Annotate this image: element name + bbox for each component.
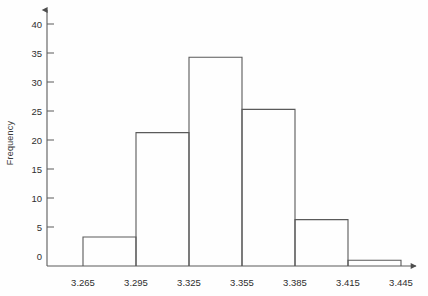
bar-3-325-3-355: [189, 57, 242, 266]
bar-3-265-3-295: [83, 237, 136, 266]
y-axis-ticks: [47, 24, 54, 227]
bar-3-295-3-325: [136, 133, 189, 266]
bar-3-355-3-385: [242, 109, 295, 266]
plot-canvas: [0, 0, 428, 296]
histogram-bars: [83, 57, 401, 266]
bar-3-385-3-415: [295, 220, 348, 266]
histogram-figure: Frequency 40 35 30 25 20 15 10 5 0 3.265…: [0, 0, 428, 296]
bar-3-415-3-445: [348, 260, 401, 266]
